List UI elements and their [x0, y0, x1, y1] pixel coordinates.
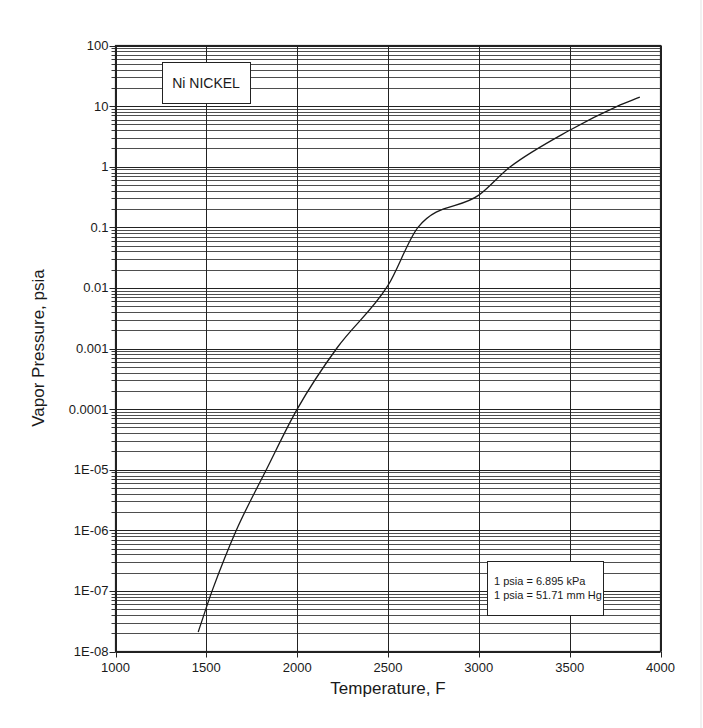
- y-axis-title: Vapor Pressure, psia: [29, 269, 48, 427]
- y-tick-label: 1E-08: [74, 644, 109, 659]
- x-axis-title: Temperature, F: [330, 679, 445, 698]
- y-tick-label: 0.0001: [69, 402, 109, 417]
- x-tick-label: 3500: [555, 660, 584, 675]
- y-tick-label: 0.1: [90, 220, 108, 235]
- x-tick-label: 2500: [374, 660, 403, 675]
- x-tick-label: 1500: [192, 660, 221, 675]
- x-tick-label: 2000: [283, 660, 312, 675]
- x-tick-label: 4000: [646, 660, 675, 675]
- conversion-note-kpa: 1 psia = 6.895 kPa: [494, 575, 586, 587]
- y-tick-label: 1E-07: [74, 583, 109, 598]
- vapor-pressure-chart: 1000150020002500300035004000 1E-081E-071…: [0, 0, 703, 728]
- y-tick-label: 0.01: [83, 280, 108, 295]
- y-tick-label: 10: [94, 99, 108, 114]
- title-box: Ni NICKEL: [163, 63, 251, 104]
- y-tick-label: 1: [101, 159, 108, 174]
- y-tick-label: 0.001: [76, 341, 109, 356]
- x-axis-tick-labels: 1000150020002500300035004000: [101, 660, 675, 675]
- y-tick-label: 1E-05: [74, 462, 109, 477]
- y-tick-label: 1E-06: [74, 523, 109, 538]
- conversion-note-box: 1 psia = 6.895 kPa 1 psia = 51.71 mm Hg: [488, 562, 604, 616]
- conversion-note-mmhg: 1 psia = 51.71 mm Hg: [494, 589, 602, 601]
- x-tick-label: 1000: [101, 660, 130, 675]
- y-tick-label: 100: [87, 38, 109, 53]
- x-tick-label: 3000: [464, 660, 493, 675]
- vapor-pressure-curve: [198, 97, 640, 632]
- element-title: Ni NICKEL: [172, 75, 240, 91]
- y-axis-tick-labels: 1E-081E-071E-061E-050.00010.0010.010.111…: [69, 38, 109, 659]
